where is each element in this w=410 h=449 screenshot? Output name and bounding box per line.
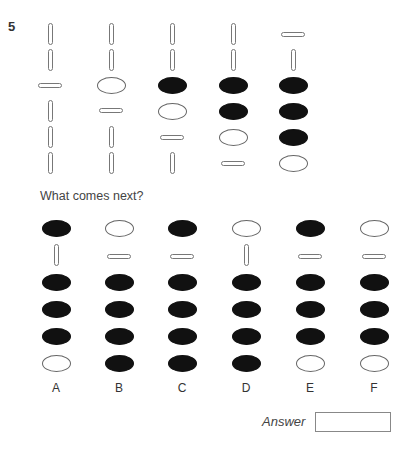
horizontal-bar-icon <box>221 161 245 166</box>
filled-oval-icon <box>42 220 71 237</box>
filled-oval-icon <box>42 301 71 318</box>
filled-oval-icon <box>360 328 389 345</box>
horizontal-bar-icon <box>281 32 305 37</box>
filled-oval-icon <box>158 77 187 94</box>
vertical-bar-icon <box>48 152 53 174</box>
filled-oval-icon <box>360 274 389 291</box>
option-label[interactable]: E <box>300 381 320 395</box>
open-oval-icon <box>296 355 325 372</box>
filled-oval-icon <box>105 355 134 372</box>
filled-oval-icon <box>168 220 197 237</box>
vertical-bar-icon <box>231 23 236 45</box>
open-oval-icon <box>279 155 308 172</box>
open-oval-icon <box>158 103 187 120</box>
filled-oval-icon <box>168 301 197 318</box>
answer-label: Answer <box>262 414 305 429</box>
question-number: 5 <box>8 19 15 34</box>
question-prompt: What comes next? <box>40 189 144 203</box>
filled-oval-icon <box>168 355 197 372</box>
open-oval-icon <box>105 220 134 237</box>
vertical-bar-icon <box>109 23 114 45</box>
open-oval-icon <box>360 220 389 237</box>
horizontal-bar-icon <box>298 254 322 259</box>
filled-oval-icon <box>219 103 248 120</box>
filled-oval-icon <box>168 274 197 291</box>
horizontal-bar-icon <box>99 108 123 113</box>
vertical-bar-icon <box>109 126 114 148</box>
open-oval-icon <box>360 355 389 372</box>
option-label[interactable]: B <box>109 381 129 395</box>
filled-oval-icon <box>42 274 71 291</box>
vertical-bar-icon <box>54 244 59 266</box>
horizontal-bar-icon <box>160 135 184 140</box>
open-oval-icon <box>97 77 126 94</box>
open-oval-icon <box>42 355 71 372</box>
horizontal-bar-icon <box>107 254 131 259</box>
vertical-bar-icon <box>48 126 53 148</box>
vertical-bar-icon <box>109 152 114 174</box>
filled-oval-icon <box>42 328 71 345</box>
vertical-bar-icon <box>170 152 175 174</box>
vertical-bar-icon <box>291 49 296 71</box>
filled-oval-icon <box>279 103 308 120</box>
filled-oval-icon <box>232 328 261 345</box>
option-label[interactable]: F <box>364 381 384 395</box>
horizontal-bar-icon <box>362 254 386 259</box>
filled-oval-icon <box>105 274 134 291</box>
filled-oval-icon <box>105 328 134 345</box>
open-oval-icon <box>232 220 261 237</box>
horizontal-bar-icon <box>38 83 62 88</box>
filled-oval-icon <box>219 77 248 94</box>
vertical-bar-icon <box>109 49 114 71</box>
filled-oval-icon <box>105 301 134 318</box>
vertical-bar-icon <box>48 23 53 45</box>
vertical-bar-icon <box>231 49 236 71</box>
filled-oval-icon <box>232 301 261 318</box>
filled-oval-icon <box>296 328 325 345</box>
open-oval-icon <box>219 129 248 146</box>
filled-oval-icon <box>232 274 261 291</box>
vertical-bar-icon <box>170 23 175 45</box>
vertical-bar-icon <box>48 49 53 71</box>
filled-oval-icon <box>279 129 308 146</box>
filled-oval-icon <box>296 301 325 318</box>
filled-oval-icon <box>168 328 197 345</box>
filled-oval-icon <box>279 77 308 94</box>
filled-oval-icon <box>296 274 325 291</box>
option-label[interactable]: D <box>236 381 256 395</box>
horizontal-bar-icon <box>170 254 194 259</box>
filled-oval-icon <box>296 220 325 237</box>
vertical-bar-icon <box>48 100 53 122</box>
answer-input-box[interactable] <box>315 412 391 432</box>
vertical-bar-icon <box>170 49 175 71</box>
option-label[interactable]: A <box>46 381 66 395</box>
option-label[interactable]: C <box>172 381 192 395</box>
filled-oval-icon <box>232 355 261 372</box>
filled-oval-icon <box>360 301 389 318</box>
vertical-bar-icon <box>244 244 249 266</box>
